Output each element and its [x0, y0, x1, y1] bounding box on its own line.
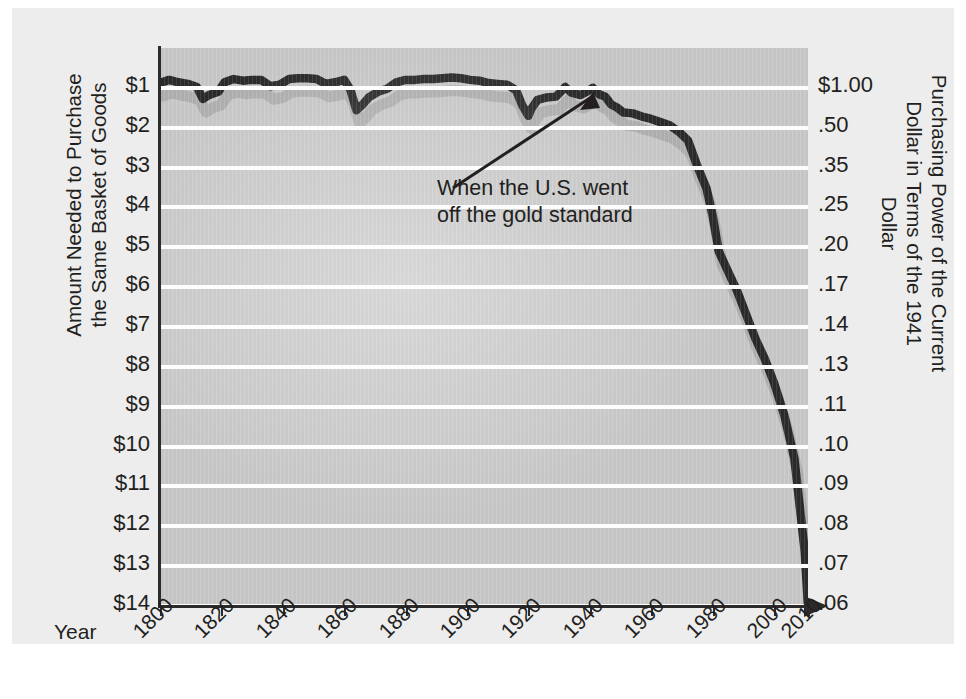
y-axis-right-title: Purchasing Power of the Current Dollar i…: [877, 74, 952, 374]
y-axis-left-tick-label: $9: [126, 391, 150, 417]
y-axis-left-title: Amount Needed to Purchase the Same Baske…: [61, 55, 111, 355]
y-axis-right-tick-label: .20: [818, 231, 849, 257]
y-axis-right-tick-label: .50: [818, 112, 849, 138]
y-axis-right-title-line2: Dollar in Terms of the 1941 Dollar: [877, 74, 927, 374]
y-axis-left-tick-label: $6: [126, 271, 150, 297]
y-axis-right-tick-label: .17: [818, 271, 849, 297]
y-axis-right-tick-label: .09: [818, 470, 849, 496]
y-axis-left-tick-label: $10: [113, 431, 150, 457]
figure-root: $1$2$3$4$5$6$7$8$9$10$11$12$13$14 $1.00.…: [0, 0, 966, 699]
y-axis-left-tick-label: $7: [126, 311, 150, 337]
chart-annotation-line2: off the gold standard: [437, 202, 633, 229]
y-axis-left-tick-label: $1: [126, 72, 150, 98]
annotation-arrow-icon: [160, 48, 808, 606]
chart-annotation-line1: When the U.S. went: [437, 175, 633, 202]
y-axis-right-tick-label: .25: [818, 191, 849, 217]
y-axis-right-tick-label: $1.00: [818, 72, 873, 98]
y-axis-left-title-line1: Amount Needed to Purchase: [61, 55, 86, 355]
y-axis-left-tick-label: $4: [126, 191, 150, 217]
y-axis-right-title-line1: Purchasing Power of the Current: [927, 74, 952, 374]
chart-annotation: When the U.S. went off the gold standard: [437, 175, 633, 229]
y-axis-right-tick-label: .10: [818, 431, 849, 457]
y-axis-right-tick-label: .13: [818, 351, 849, 377]
x-axis-title: Year: [54, 620, 96, 644]
y-axis-left-tick-label: $3: [126, 152, 150, 178]
y-axis-right-tick-label: .14: [818, 311, 849, 337]
y-axis-left-tick-label: $5: [126, 231, 150, 257]
y-axis-left-tick-label: $2: [126, 112, 150, 138]
y-axis-left-tick-label: $13: [113, 550, 150, 576]
figure-panel: $1$2$3$4$5$6$7$8$9$10$11$12$13$14 $1.00.…: [12, 8, 954, 644]
y-axis-right-tick-label: .08: [818, 510, 849, 536]
y-axis-spine: [158, 46, 161, 608]
y-axis-right-tick-label: .07: [818, 550, 849, 576]
plot-area: [160, 48, 808, 606]
y-axis-left-tick-label: $11: [115, 470, 150, 496]
y-axis-left-title-line2: the Same Basket of Goods: [86, 55, 111, 355]
y-axis-left-tick-label: $8: [126, 351, 150, 377]
y-axis-right-tick-label: .11: [818, 391, 847, 417]
y-axis-right-tick-label: .35: [818, 152, 849, 178]
y-axis-left-tick-label: $12: [113, 510, 150, 536]
